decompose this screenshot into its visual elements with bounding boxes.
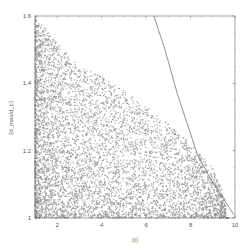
- x-tick-label: 8: [189, 222, 193, 228]
- y-tick-label: 1.2: [23, 148, 32, 154]
- y-tick-label: 1.6: [23, 13, 32, 19]
- bound-curve: [154, 16, 234, 215]
- x-tick-label: 6: [144, 222, 148, 228]
- scatter-chart: 246810 11.21.41.6 ⟨t⟩ ⟨d_max/d_c⟩: [0, 0, 250, 250]
- x-tick-label: 4: [100, 222, 104, 228]
- x-axis-label: ⟨t⟩: [132, 237, 138, 243]
- y-tick-label: 1.4: [23, 80, 32, 86]
- x-tick-label: 10: [232, 222, 239, 228]
- scatter-points: [34, 16, 228, 218]
- x-tick-label: 2: [56, 222, 60, 228]
- y-tick-label: 1: [28, 215, 32, 221]
- y-axis-label: ⟨d_max/d_c⟩: [8, 101, 14, 134]
